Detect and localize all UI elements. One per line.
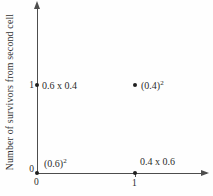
x-tick-label-0: 0 — [34, 177, 39, 188]
point-label-0-0-exponent: 2 — [63, 157, 67, 165]
point-label-1-0: 0.4 x 0.6 — [140, 156, 175, 167]
y-tick-label-1: 1 — [26, 80, 34, 91]
x-axis-line — [37, 173, 207, 174]
y-axis-line — [37, 8, 38, 173]
y-axis-label: Number of survivors from second cell — [4, 6, 16, 178]
point-label-1-1-base: (0.4) — [141, 80, 160, 91]
data-point-0-0 — [35, 171, 39, 175]
y-tick-label-0: 0 — [26, 164, 34, 175]
x-tick-label-1: 1 — [132, 178, 137, 189]
x-axis-arrow-right-icon — [201, 170, 209, 176]
point-label-0-0: (0.6)2 — [44, 158, 67, 169]
data-point-0-1 — [35, 83, 39, 87]
point-label-1-1-exponent: 2 — [160, 79, 164, 87]
data-point-1-1 — [133, 83, 137, 87]
scatter-plot-figure: Number of survivors from second cell 1 0… — [0, 0, 213, 196]
point-label-1-1: (0.4)2 — [141, 80, 164, 91]
y-axis-arrow-up-icon — [34, 1, 40, 9]
point-label-0-1: 0.6 x 0.4 — [42, 80, 77, 91]
data-point-1-0 — [133, 171, 137, 175]
point-label-0-0-base: (0.6) — [44, 158, 63, 169]
